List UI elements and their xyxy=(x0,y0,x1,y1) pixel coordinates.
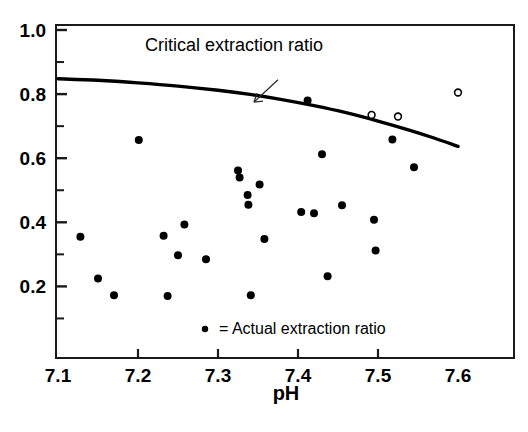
chart-legend: = Actual extraction ratio xyxy=(202,320,386,337)
data-point-filled xyxy=(244,191,252,199)
data-point-filled xyxy=(297,208,305,216)
open-circle-points xyxy=(368,89,461,120)
data-point-filled xyxy=(324,272,332,280)
x-axis-title: pH xyxy=(273,382,300,404)
data-point-filled xyxy=(260,235,268,243)
y-tick-label: 1.0 xyxy=(20,20,46,41)
x-tick-label: 7.3 xyxy=(205,365,231,386)
data-point-filled xyxy=(410,163,418,171)
y-tick-label: 0.2 xyxy=(20,276,46,297)
data-point-open xyxy=(455,89,462,96)
data-point-filled xyxy=(94,274,102,282)
data-point-filled xyxy=(318,150,326,158)
x-axis-ticks xyxy=(138,349,378,358)
legend-label: = Actual extraction ratio xyxy=(219,320,386,337)
data-point-filled xyxy=(256,180,264,188)
data-point-filled xyxy=(338,201,346,209)
x-tick-label: 7.2 xyxy=(125,365,151,386)
x-tick-label: 7.1 xyxy=(45,365,72,386)
data-point-filled xyxy=(234,166,242,174)
x-tick-label: 7.6 xyxy=(445,365,471,386)
data-point-filled xyxy=(202,255,210,263)
data-point-filled xyxy=(370,216,378,224)
x-axis-tick-labels: 7.17.27.37.47.57.6 xyxy=(45,365,471,386)
data-point-filled xyxy=(76,233,84,241)
data-point-filled xyxy=(304,97,312,105)
data-point-filled xyxy=(388,136,396,144)
data-point-filled xyxy=(372,247,380,255)
data-point-filled xyxy=(135,136,143,144)
data-point-open xyxy=(368,112,375,119)
chart-canvas: 1.00.80.60.40.2 7.17.27.37.47.57.6 Criti… xyxy=(0,0,528,432)
data-point-open xyxy=(395,113,402,120)
legend-marker-filled-circle xyxy=(202,326,208,332)
data-point-filled xyxy=(310,209,318,217)
y-tick-label: 0.6 xyxy=(20,148,46,169)
data-point-filled xyxy=(180,221,188,229)
data-point-filled xyxy=(110,291,118,299)
actual-extraction-ratio-points xyxy=(76,97,418,301)
y-tick-label: 0.8 xyxy=(20,84,46,105)
data-point-filled xyxy=(160,232,168,240)
extraction-ratio-chart: 1.00.80.60.40.2 7.17.27.37.47.57.6 Criti… xyxy=(0,0,528,432)
data-point-filled xyxy=(174,251,182,259)
data-point-filled xyxy=(244,201,252,209)
axes-frame xyxy=(56,25,514,358)
y-tick-label: 0.4 xyxy=(20,212,47,233)
critical-extraction-ratio-label: Critical extraction ratio xyxy=(145,35,323,55)
x-tick-label: 7.5 xyxy=(365,365,392,386)
data-point-filled xyxy=(164,292,172,300)
y-axis-ticks xyxy=(56,30,67,318)
data-point-filled xyxy=(247,291,255,299)
data-point-filled xyxy=(236,173,244,181)
y-axis-tick-labels: 1.00.80.60.40.2 xyxy=(20,20,47,297)
plot-border xyxy=(56,25,514,358)
